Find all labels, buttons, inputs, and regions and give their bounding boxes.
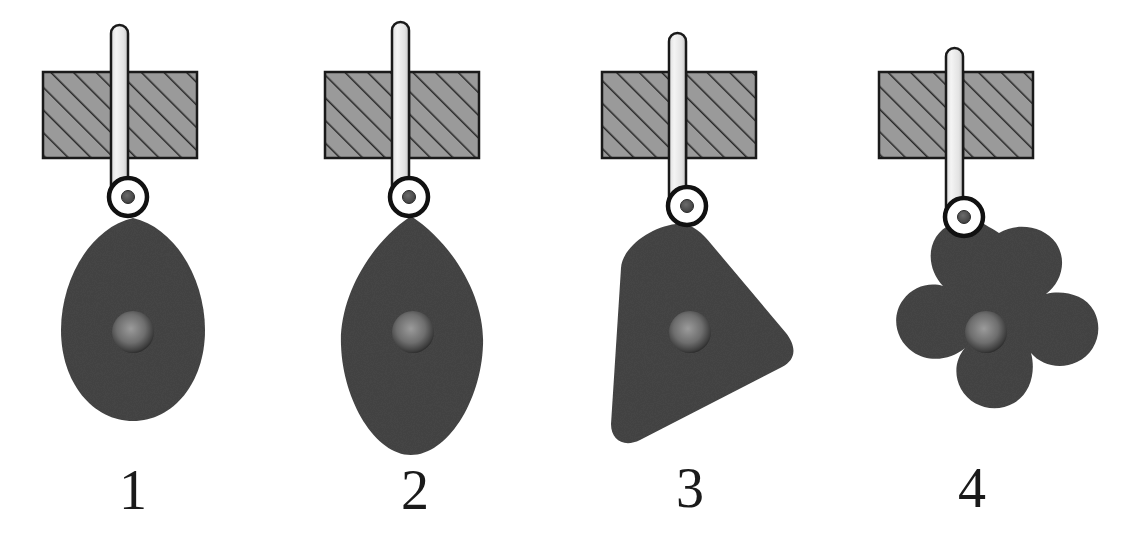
cam-hub	[965, 311, 1007, 353]
follower-rod	[392, 22, 409, 201]
roller-follower	[109, 178, 147, 216]
roller-follower	[945, 198, 983, 236]
guide-block-left	[602, 72, 671, 158]
mechanism-2	[325, 22, 483, 455]
roller-pin	[681, 200, 694, 213]
roller-pin	[403, 191, 416, 204]
mechanism-1	[43, 25, 205, 421]
guide-block-left	[879, 72, 948, 158]
follower-rod	[669, 33, 686, 209]
cam-hub	[392, 311, 434, 353]
cam-label-4: 4	[927, 460, 1017, 516]
cam-label-3: 3	[645, 460, 735, 516]
cam-hub	[669, 311, 711, 353]
cam-label-2: 2	[370, 462, 460, 518]
roller-pin	[122, 191, 135, 204]
cam-profile-clover	[896, 220, 1098, 408]
cam-label-1: 1	[88, 462, 178, 518]
mechanism-3	[602, 33, 793, 443]
follower-rod	[946, 48, 963, 222]
guide-block-right	[686, 72, 756, 158]
guide-block-right	[409, 72, 479, 158]
guide-block-left	[43, 72, 113, 158]
guide-block-right	[963, 72, 1033, 158]
roller-pin	[958, 211, 971, 224]
guide-block-right	[127, 72, 197, 158]
guide-block-left	[325, 72, 394, 158]
cam-hub	[112, 311, 154, 353]
roller-follower	[390, 178, 428, 216]
follower-rod	[111, 25, 128, 201]
roller-follower	[668, 187, 706, 225]
cam-profiles-figure: 1 2 3 4	[0, 0, 1137, 541]
mechanism-4	[879, 48, 1098, 408]
